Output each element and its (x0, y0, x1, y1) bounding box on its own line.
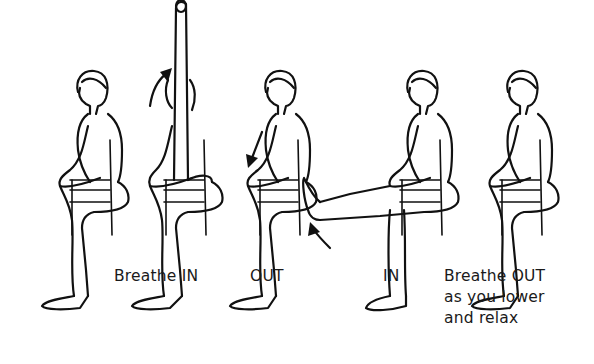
caption-breathe-out-line2: as you lower (444, 287, 545, 308)
figure-leg-extended (303, 71, 458, 310)
caption-breathe-out-line1: Breathe OUT (444, 266, 545, 287)
caption-breathe-in: Breathe IN (114, 266, 198, 287)
caption-breathe-out-line3: and relax (444, 308, 518, 329)
caption-out: OUT (250, 266, 284, 287)
caption-in: IN (383, 266, 400, 287)
figure-arm-raised (132, 0, 223, 309)
